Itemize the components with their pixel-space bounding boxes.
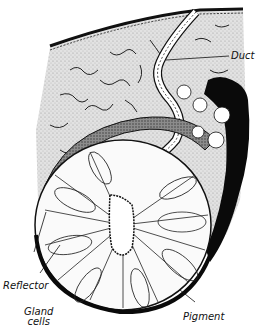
label-gland-line2: cells bbox=[24, 317, 53, 327]
central-lumen bbox=[109, 195, 134, 255]
label-reflector: Reflector bbox=[3, 281, 48, 291]
label-gland-cells: Gland cells bbox=[24, 307, 53, 327]
label-pigment: Pigment bbox=[183, 312, 224, 322]
label-duct: Duct bbox=[231, 51, 254, 61]
